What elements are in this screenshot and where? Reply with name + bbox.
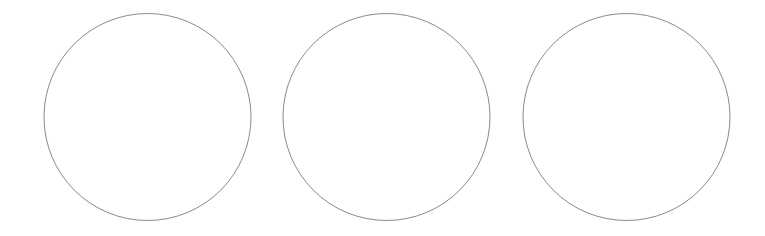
circle-1 <box>44 14 251 221</box>
circle-3 <box>523 14 730 221</box>
circle-2 <box>283 14 490 221</box>
diagram-canvas <box>0 0 765 236</box>
